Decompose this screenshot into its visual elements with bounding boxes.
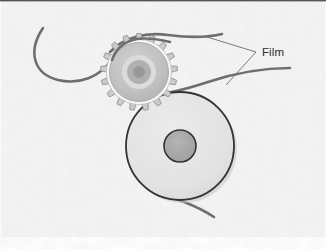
sprocket-hub-center [133,66,145,78]
figure-root: Film [0,0,326,251]
film-label: Film [262,46,284,58]
film-transport-diagram: Film [0,0,326,251]
roller-hub [164,130,196,162]
top-border-rule [0,0,326,1]
